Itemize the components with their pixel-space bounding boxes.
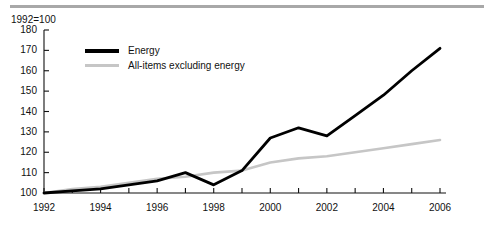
- energy-price-index-chart: 1992=100 100110120130140150160170180 199…: [0, 0, 491, 228]
- series-line-all-items-excluding-energy: [44, 140, 440, 193]
- plot-area: [0, 0, 491, 228]
- series-line-energy: [44, 48, 440, 193]
